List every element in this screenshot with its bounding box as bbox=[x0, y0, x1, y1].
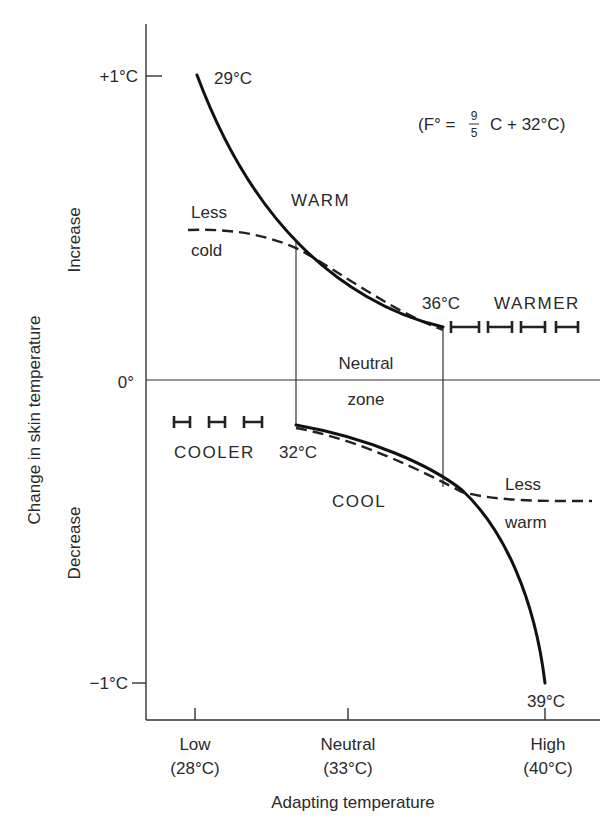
y-increase-label: Increase bbox=[65, 207, 84, 272]
region-label-warmer: WARMER bbox=[494, 294, 580, 313]
curve-label-39c: 39°C bbox=[527, 692, 565, 711]
less-cold-label-1: Less bbox=[191, 203, 227, 222]
x-tick-sublabel-low: (28°C) bbox=[170, 759, 219, 778]
y-tick-label-minus1: −1°C bbox=[90, 674, 128, 693]
cooler-bar-markers bbox=[174, 416, 262, 428]
formula-suffix: C + 32°C) bbox=[490, 115, 565, 134]
formula-denominator: 5 bbox=[471, 126, 478, 140]
less-warm-label-1: Less bbox=[505, 475, 541, 494]
y-decrease-label: Decrease bbox=[65, 507, 84, 580]
skin-temperature-chart: +1°C 0° −1°C Change in skin temperature … bbox=[0, 0, 616, 830]
cool-threshold-curve bbox=[296, 425, 545, 683]
x-tick-sublabel-high: (40°C) bbox=[523, 759, 572, 778]
region-label-warm: WARM bbox=[291, 191, 350, 210]
less-warm-curve bbox=[296, 428, 592, 501]
neutral-zone-label-bottom: zone bbox=[348, 390, 385, 409]
curve-label-29c: 29°C bbox=[214, 69, 252, 88]
y-tick-label-zero: 0° bbox=[118, 373, 134, 392]
y-axis-title: Change in skin temperature bbox=[25, 316, 44, 525]
x-axis-title: Adapting temperature bbox=[271, 793, 435, 812]
warmer-bar-markers bbox=[451, 321, 578, 333]
formula-numerator: 9 bbox=[471, 109, 478, 123]
less-cold-label-2: cold bbox=[191, 241, 222, 260]
region-label-cooler: COOLER bbox=[174, 443, 255, 462]
y-tick-label-plus1: +1°C bbox=[100, 67, 138, 86]
x-tick-label-neutral: Neutral bbox=[321, 735, 376, 754]
curve-label-32c: 32°C bbox=[279, 443, 317, 462]
formula-prefix: (F° = bbox=[418, 115, 456, 134]
less-warm-label-2: warm bbox=[504, 513, 547, 532]
region-label-cool: COOL bbox=[332, 492, 386, 511]
formula-note: (F° = 9 5 C + 32°C) bbox=[418, 109, 565, 140]
x-tick-label-high: High bbox=[531, 735, 566, 754]
neutral-zone-label-top: Neutral bbox=[339, 354, 394, 373]
curve-label-36c: 36°C bbox=[422, 294, 460, 313]
x-tick-sublabel-neutral: (33°C) bbox=[323, 759, 372, 778]
x-tick-label-low: Low bbox=[179, 735, 211, 754]
